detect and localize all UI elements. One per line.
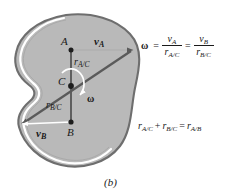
fraction-va-over-rac: vA rA/C [162, 34, 182, 57]
omega-label: ω [87, 94, 94, 104]
rbc-subscript: B/C [200, 51, 211, 59]
body-outline [15, 14, 139, 166]
figure-caption: (b) [104, 176, 117, 188]
v-a-subscript: A [99, 40, 104, 49]
position-sum-equation: rA/C+rB/C=rA/B [138, 120, 201, 131]
equals-sign-3: = [177, 120, 187, 131]
vb-symbol: v [199, 33, 203, 44]
v-a-label: vA [94, 36, 104, 47]
figure-canvas [0, 0, 227, 195]
fraction-vb-over-rbc: vB rB/C [194, 34, 214, 57]
plus-sign: + [153, 120, 163, 131]
angular-velocity-equation: ω = vA rA/C = vB rB/C [141, 34, 214, 57]
rac-term-subscript: A/C [142, 125, 153, 133]
point-label-c: C [58, 76, 65, 87]
equals-sign-1: = [153, 40, 159, 51]
omega-symbol: ω [141, 40, 148, 51]
point-label-b: B [67, 127, 74, 138]
fraction-2-denominator: rB/C [194, 47, 213, 57]
rac-subscript: A/C [168, 51, 179, 59]
v-b-label: vB [36, 128, 46, 139]
point-label-a: A [61, 36, 68, 47]
r-b-c-label: rB/C [46, 100, 62, 110]
rigid-body-rotation-figure: A C B vA vB rA/C rB/C ω ω = vA rA/C = vB… [0, 0, 227, 195]
r-a-c-subscript: A/C [78, 60, 90, 69]
vb-subscript: B [204, 38, 208, 46]
fraction-1-denominator: rA/C [163, 47, 182, 57]
r-a-c-label: rA/C [74, 57, 90, 67]
equals-sign-2: = [185, 40, 191, 51]
va-subscript: A [172, 38, 176, 46]
v-b-subscript: B [41, 132, 46, 141]
fraction-1-numerator: vA [166, 34, 179, 44]
r-b-c-subscript: B/C [50, 103, 62, 112]
fraction-2-numerator: vB [197, 34, 210, 44]
rab-term-subscript: A/B [191, 125, 202, 133]
rbc-term-subscript: B/C [166, 125, 177, 133]
